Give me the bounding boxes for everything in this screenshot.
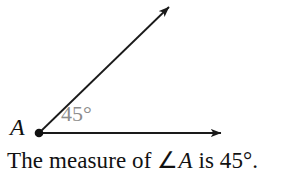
caption-text: The measure of ∠A is 45°. (7, 148, 258, 174)
figure-page: A 45° The measure of ∠A is 45°. (0, 0, 307, 179)
vertex-label-a: A (10, 115, 25, 139)
angle-measure-label: 45° (61, 103, 92, 125)
caption-variable: A (178, 148, 192, 173)
caption-suffix: is 45°. (193, 148, 259, 173)
angle-diagram (0, 0, 307, 145)
vertex-point (35, 129, 44, 138)
diagonal-ray (39, 7, 169, 133)
caption-prefix: The measure of ∠ (7, 148, 178, 173)
